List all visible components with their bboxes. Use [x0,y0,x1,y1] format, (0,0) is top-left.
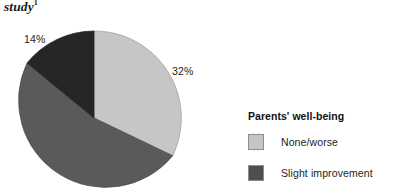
pie-chart-svg [6,30,182,192]
legend-title: Parents' well-being [248,110,408,122]
legend-label-none-worse: None/worse [281,136,338,148]
legend-swatch-slight-improvement [248,165,264,181]
pie-chart [6,30,182,192]
pie-label-slight-improvement: 14% [24,33,46,45]
pie-label-none-worse: 32% [172,65,194,77]
figure-container: study1 32% 14% Parents' well-being None/… [0,0,412,192]
legend: Parents' well-being None/worse Slight im… [248,110,408,192]
figure-title-footnote-marker: 1 [34,0,38,7]
figure-title-text: study [4,0,34,14]
legend-item-slight-improvement: Slight improvement [248,165,408,181]
legend-item-none-worse: None/worse [248,134,408,150]
legend-swatch-none-worse [248,134,264,150]
legend-label-slight-improvement: Slight improvement [281,167,373,179]
figure-title-fragment: study1 [4,0,38,15]
